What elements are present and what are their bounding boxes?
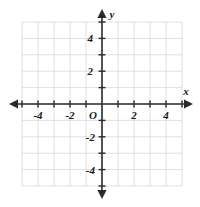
y-tick-label-pos2: 2	[87, 65, 94, 77]
graph-canvas: -4 -2 2 4 4 2 -2 -4 O x y	[0, 0, 200, 207]
x-axis-label: x	[182, 85, 189, 97]
y-axis-arrow-down	[97, 190, 106, 199]
y-tick-label-pos4: 4	[87, 32, 94, 44]
y-axis-arrow-up	[97, 9, 106, 18]
x-tick-label-pos4: 4	[162, 109, 169, 121]
y-tick-label-neg4: -4	[86, 164, 96, 176]
x-tick-label-pos2: 2	[130, 109, 137, 121]
coordinate-plane-graph: -4 -2 2 4 4 2 -2 -4 O x y	[0, 0, 200, 207]
x-axis-arrow-left	[9, 99, 18, 108]
y-axis-label: y	[108, 8, 115, 20]
axis-lines	[13, 13, 189, 195]
x-axis-arrow-right	[184, 99, 193, 108]
x-tick-label-neg2: -2	[65, 109, 75, 121]
origin-label: O	[89, 109, 97, 121]
y-tick-label-neg2: -2	[86, 131, 96, 143]
x-tick-label-neg4: -4	[33, 109, 43, 121]
